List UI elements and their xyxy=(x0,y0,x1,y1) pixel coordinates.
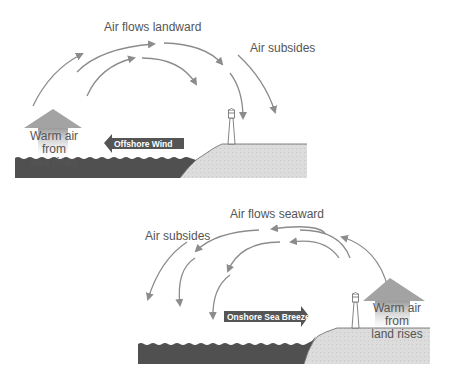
offshore-wind-label: Offshore Wind xyxy=(114,139,172,149)
lighthouse-icon xyxy=(352,293,359,329)
warm-air-line1: Warm air from xyxy=(361,302,433,328)
onshore-sea-breeze-label: Onshore Sea Breeze xyxy=(227,312,310,322)
warm-air-sea-rises-label: Warm air from sea rises xyxy=(18,130,90,169)
curved-flow-arrow-icon xyxy=(33,43,275,118)
warm-air-line1: Warm air from xyxy=(18,130,90,156)
air-subsides-label-top: Air subsides xyxy=(250,41,315,55)
lighthouse-icon xyxy=(228,109,235,145)
air-flows-seaward-label: Air flows seaward xyxy=(230,207,324,221)
warm-air-land-rises-label: Warm air from land rises xyxy=(361,302,433,341)
land xyxy=(180,144,307,178)
warm-air-line2: land rises xyxy=(361,328,433,341)
bottom-panel xyxy=(138,227,430,364)
air-subsides-label-bottom: Air subsides xyxy=(145,229,210,243)
air-flows-landward-label: Air flows landward xyxy=(104,20,201,34)
sea xyxy=(138,336,316,364)
warm-air-line2: sea rises xyxy=(18,156,90,169)
